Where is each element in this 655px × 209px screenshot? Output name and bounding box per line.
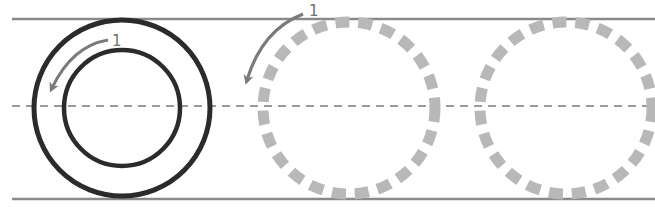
solid-outer-circle xyxy=(34,20,210,196)
rolling-circle-diagram: 1 1 xyxy=(0,0,655,209)
rotation-label-outer: 1 xyxy=(309,2,319,20)
solid-inner-circle xyxy=(64,50,180,166)
diagram-canvas: 1 1 xyxy=(0,0,655,209)
ghost-circle-1 xyxy=(263,22,435,194)
rotation-label-inner: 1 xyxy=(112,32,122,50)
ghost-circle-2 xyxy=(480,22,652,194)
